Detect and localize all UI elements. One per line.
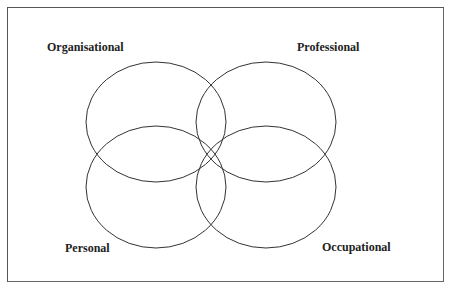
occupational-label: Occupational	[322, 240, 391, 255]
organisational-label: Organisational	[47, 40, 124, 55]
personal-ellipse	[86, 126, 226, 248]
professional-label: Professional	[297, 40, 359, 55]
professional-ellipse	[196, 62, 336, 182]
personal-label: Personal	[65, 241, 110, 256]
organisational-ellipse	[86, 62, 226, 182]
occupational-ellipse	[196, 126, 336, 248]
